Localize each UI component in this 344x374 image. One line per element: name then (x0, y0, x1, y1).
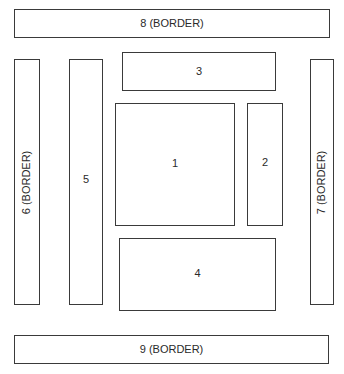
region-7-right-border: 7 (BORDER) (310, 59, 334, 305)
region-2: 2 (247, 103, 283, 226)
region-7-label: 7 (BORDER) (317, 150, 328, 214)
region-5: 5 (69, 59, 103, 305)
region-6-left-border: 6 (BORDER) (14, 59, 40, 305)
region-9-bottom-border: 9 (BORDER) (14, 335, 329, 364)
region-2-label: 2 (262, 157, 268, 168)
region-9-label: 9 (BORDER) (140, 344, 204, 355)
region-1: 1 (115, 103, 235, 226)
region-4: 4 (119, 238, 276, 311)
region-8-top-border: 8 (BORDER) (14, 9, 330, 38)
region-4-label: 4 (194, 268, 200, 279)
region-5-label: 5 (83, 174, 89, 185)
region-1-label: 1 (172, 158, 178, 169)
region-8-label: 8 (BORDER) (140, 18, 204, 29)
region-3-label: 3 (196, 66, 202, 77)
region-6-label: 6 (BORDER) (22, 150, 33, 214)
region-3: 3 (122, 52, 276, 91)
